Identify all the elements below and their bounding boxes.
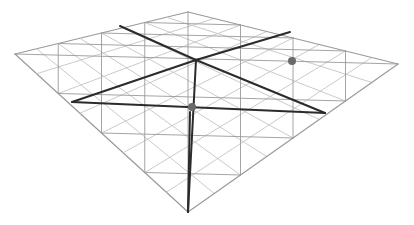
lattice-diagram bbox=[0, 0, 414, 225]
heavy-line bbox=[120, 26, 196, 60]
right-node bbox=[288, 57, 296, 65]
grid-line-v bbox=[102, 38, 294, 133]
perspective-grid bbox=[0, 0, 414, 225]
diagonal-line bbox=[102, 133, 294, 138]
diagonal-line bbox=[102, 33, 294, 38]
grid-line-v bbox=[166, 58, 371, 193]
diagonal-line bbox=[145, 23, 241, 26]
center-node bbox=[188, 103, 196, 111]
